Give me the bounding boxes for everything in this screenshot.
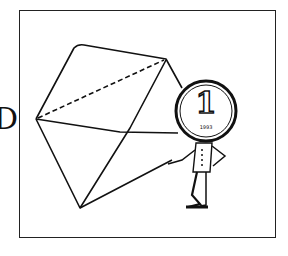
envelope-coin-illustration: 1 1993	[0, 0, 288, 256]
coin-caption: 1993	[200, 124, 213, 130]
envelope-icon	[36, 45, 182, 208]
coin-value: 1	[196, 85, 217, 120]
coin-character-icon: 1 1993	[168, 81, 236, 207]
